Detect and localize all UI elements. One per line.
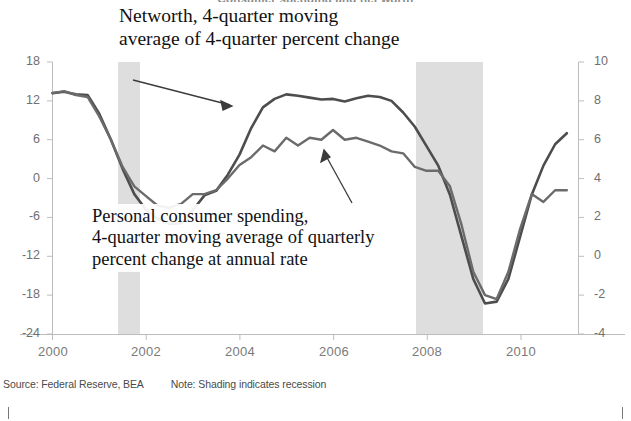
right-tick-0: 0	[594, 248, 624, 262]
chart-figure: Consumer spending and net worth	[0, 0, 631, 421]
crop-mark-left	[8, 407, 9, 419]
right-tick-4: 4	[594, 171, 624, 185]
left-tick-neg18: -18	[10, 287, 40, 301]
right-axis-ticks	[579, 62, 585, 334]
spending-arrow-line	[325, 154, 352, 203]
right-tick-10: 10	[594, 54, 624, 68]
left-tick-0: 0	[10, 171, 40, 185]
annotation-spending-line3: percent change at annual rate	[92, 249, 375, 270]
networth-arrow-head	[221, 101, 232, 110]
left-tick-neg6: -6	[10, 209, 40, 223]
annotation-spending-line1: Personal consumer spending,	[92, 206, 375, 227]
x-tick-2010: 2010	[490, 344, 552, 359]
footnote-note: Note: Shading indicates recession	[171, 378, 326, 390]
right-tick-neg2: -2	[594, 287, 624, 301]
recession-bands	[118, 62, 483, 334]
annotation-spending: Personal consumer spending, 4-quarter mo…	[88, 204, 379, 272]
left-tick-18: 18	[10, 54, 40, 68]
annotation-spending-line2: 4-quarter moving average of quarterly	[92, 227, 375, 248]
x-tick-2004: 2004	[209, 344, 271, 359]
left-tick-12: 12	[10, 93, 40, 107]
x-tick-2006: 2006	[303, 344, 365, 359]
left-tick-neg12: -12	[10, 248, 40, 262]
footnote: Source: Federal Reserve, BEA Note: Shadi…	[3, 378, 326, 390]
x-axis-ticks	[53, 335, 522, 341]
right-tick-neg4: -4	[594, 326, 624, 340]
x-tick-2002: 2002	[115, 344, 177, 359]
x-tick-2008: 2008	[396, 344, 458, 359]
left-tick-neg24: -24	[10, 326, 40, 340]
left-axis-ticks	[47, 62, 53, 334]
footnote-source: Source: Federal Reserve, BEA	[3, 378, 143, 390]
axes	[20, 62, 625, 335]
right-tick-8: 8	[594, 93, 624, 107]
right-tick-6: 6	[594, 132, 624, 146]
annotation-networth-line1: Networth, 4-quarter moving	[119, 5, 399, 28]
x-tick-2000: 2000	[22, 344, 84, 359]
networth-arrow-line	[133, 80, 230, 105]
left-tick-6: 6	[10, 132, 40, 146]
annotation-networth-line2: average of 4-quarter percent change	[119, 28, 399, 51]
crop-mark-right	[622, 407, 623, 419]
right-tick-2: 2	[594, 209, 624, 223]
annotation-networth: Networth, 4-quarter moving average of 4-…	[116, 4, 402, 51]
